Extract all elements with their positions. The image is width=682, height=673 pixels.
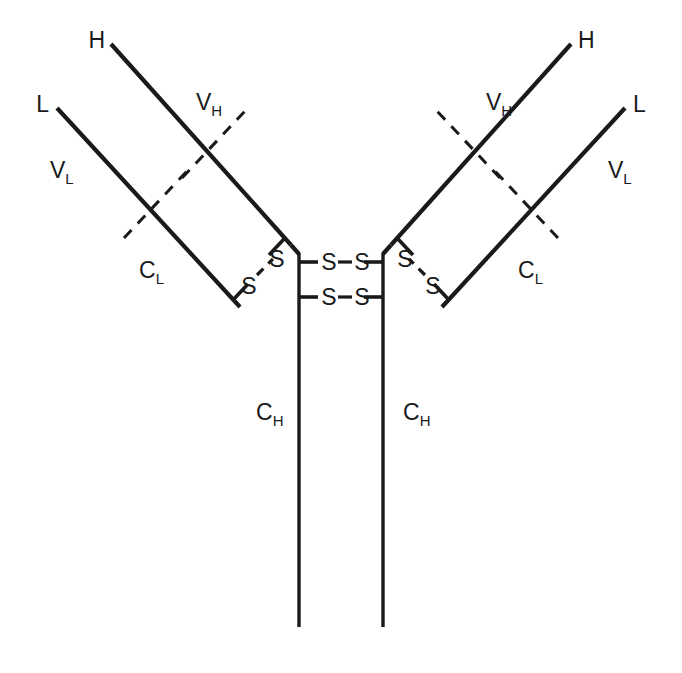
label-heavy-chain-right-main: H <box>578 27 595 53</box>
domain-divider-light-left <box>124 170 188 238</box>
heavy-chain-right-arm <box>391 44 571 245</box>
label-variable-light-right: VL <box>608 157 632 187</box>
domain-divider-heavy-left <box>182 110 246 178</box>
label-constant-heavy-left-main: C <box>256 399 273 425</box>
label-constant-light-right: CL <box>518 257 543 287</box>
label-constant-heavy-right-sub: H <box>420 412 431 429</box>
label-variable-light-right-main: V <box>608 157 624 183</box>
label-constant-heavy-left-sub: H <box>273 412 284 429</box>
sulfur-atom-heavy-right: S <box>397 246 412 272</box>
heavy-chain-left-arm <box>111 44 291 245</box>
sulfur-atom-light-right: S <box>425 273 440 299</box>
label-variable-heavy-right-sub: H <box>501 102 512 119</box>
sulfur-atom-hinge-upper-left: S <box>321 249 336 275</box>
antibody-structure-svg: S S S S S S S S H <box>0 0 682 673</box>
label-constant-heavy-right-main: C <box>403 399 420 425</box>
label-heavy-chain-left: H <box>88 27 105 53</box>
sulfur-atom-light-left: S <box>241 273 256 299</box>
label-variable-light-left: VL <box>50 157 74 187</box>
domain-divider-heavy-right <box>436 110 500 178</box>
label-variable-heavy-left-main: V <box>196 89 212 115</box>
label-variable-heavy-right: VH <box>486 89 512 119</box>
sulfur-atom-hinge-upper-right: S <box>354 249 369 275</box>
label-light-chain-left: L <box>36 91 49 117</box>
label-variable-heavy-left-sub: H <box>211 102 222 119</box>
label-heavy-chain-right: H <box>578 27 595 53</box>
label-constant-light-left-sub: L <box>156 270 164 287</box>
sulfur-atom-heavy-left: S <box>269 246 284 272</box>
domain-divider-light-right <box>494 170 558 238</box>
label-variable-light-left-sub: L <box>65 170 73 187</box>
label-constant-light-left-main: C <box>139 257 156 283</box>
label-variable-light-left-main: V <box>50 157 66 183</box>
label-light-chain-right-main: L <box>633 91 646 117</box>
label-variable-heavy-right-main: V <box>486 89 502 115</box>
label-constant-light-right-sub: L <box>535 270 543 287</box>
label-constant-heavy-right: CH <box>403 399 430 429</box>
label-constant-heavy-left: CH <box>256 399 283 429</box>
heavy-chain-right-bend <box>383 245 391 254</box>
label-heavy-chain-left-main: H <box>88 27 105 53</box>
sulfur-atom-hinge-lower-left: S <box>321 284 336 310</box>
label-constant-light-left: CL <box>139 257 164 287</box>
label-variable-light-right-sub: L <box>623 170 631 187</box>
sulfur-atom-hinge-lower-right: S <box>354 284 369 310</box>
heavy-chain-left-bend <box>291 245 299 254</box>
label-light-chain-left-main: L <box>36 91 49 117</box>
label-light-chain-right: L <box>633 91 646 117</box>
antibody-diagram: S S S S S S S S H <box>0 0 682 673</box>
label-constant-light-right-main: C <box>518 257 535 283</box>
label-variable-heavy-left: VH <box>196 89 222 119</box>
